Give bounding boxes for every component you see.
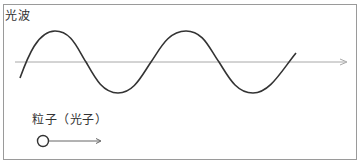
photon-particle [38,136,102,147]
wave-diagram [0,0,362,165]
photon-circle-icon [38,136,49,147]
particle-label: 粒子（光子） [32,110,107,127]
propagation-axis [15,59,347,65]
